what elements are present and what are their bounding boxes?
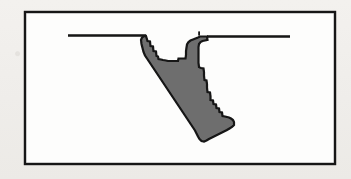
scanned-figure-canvas <box>0 0 351 179</box>
scan-speck <box>198 31 200 35</box>
figure-root <box>0 0 351 179</box>
